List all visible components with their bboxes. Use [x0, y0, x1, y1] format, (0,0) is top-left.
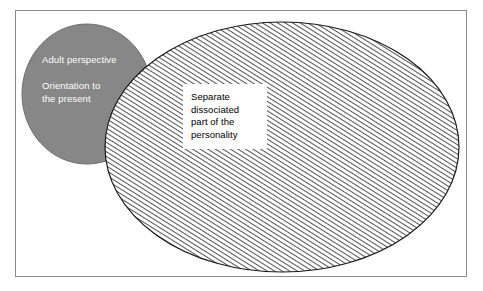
dissociated-line-4: personality — [191, 129, 259, 142]
dissociated-line-1: Separate — [191, 91, 259, 104]
figure-root: Adult perspective Orientation to the pre… — [0, 0, 483, 291]
dissociated-line-3: part of the — [191, 116, 259, 129]
diagram-frame: Adult perspective Orientation to the pre… — [15, 10, 467, 277]
dissociated-part-label-box: Separate dissociated part of the persona… — [183, 84, 267, 149]
dissociated-line-2: dissociated — [191, 104, 259, 117]
dissociated-part-ellipse — [105, 22, 459, 272]
